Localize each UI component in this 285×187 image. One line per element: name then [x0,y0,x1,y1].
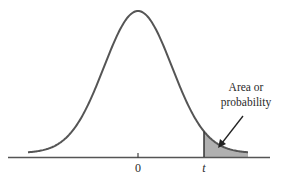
distribution-curve [28,11,248,152]
shaded-tail-area [204,131,248,157]
t-distribution-diagram: 0 t Area or probability [0,0,285,187]
zero-label: 0 [135,161,141,175]
annotation-line-1: Area or [229,81,264,93]
annotation-line-2: probability [221,96,272,109]
t-label: t [202,161,206,175]
arrow-shaft [222,116,243,143]
